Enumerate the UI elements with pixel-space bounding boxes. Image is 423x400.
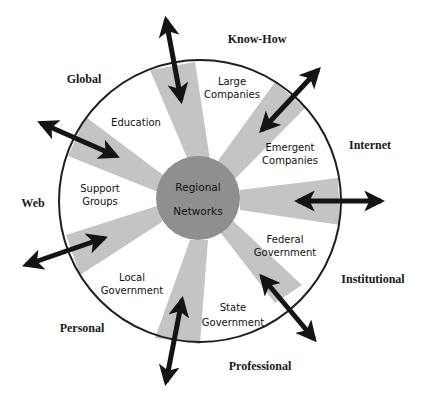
hub-regional-networks — [156, 156, 240, 240]
hub-label-line1: Regional — [175, 181, 220, 193]
label-support-groups-1: Support — [80, 183, 120, 194]
regional-networks-diagram: Regional Networks Large Companies Emerge… — [0, 0, 423, 400]
label-federal-government-2: Government — [254, 247, 316, 258]
label-large-companies-1: Large — [218, 76, 246, 87]
label-state-government-2: Government — [202, 317, 264, 328]
label-know-how: Know-How — [228, 32, 287, 46]
label-federal-government-1: Federal — [267, 234, 304, 245]
spoke-federal-state — [220, 220, 302, 303]
label-professional: Professional — [229, 359, 292, 373]
label-education: Education — [111, 117, 161, 128]
label-state-government-1: State — [220, 302, 246, 313]
label-personal: Personal — [60, 321, 105, 335]
label-institutional: Institutional — [341, 272, 405, 286]
label-global: Global — [67, 72, 102, 86]
spoke-large-companies — [150, 62, 210, 160]
label-web: Web — [21, 196, 45, 210]
hub-label-line2: Networks — [173, 205, 222, 217]
label-internet: Internet — [349, 138, 391, 152]
label-local-government-2: Government — [101, 285, 163, 296]
label-support-groups-2: Groups — [82, 196, 118, 207]
label-emergent-companies-1: Emergent — [266, 142, 315, 153]
label-large-companies-2: Companies — [204, 89, 260, 100]
label-emergent-companies-2: Companies — [262, 155, 318, 166]
spoke-local-support — [66, 205, 162, 275]
label-local-government-1: Local — [119, 272, 145, 283]
